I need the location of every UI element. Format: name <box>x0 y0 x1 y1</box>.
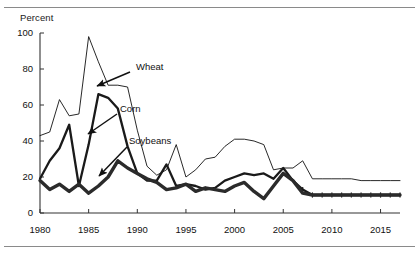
annotation-label-wheat: Wheat <box>136 61 164 72</box>
x-tick-label: 2005 <box>273 224 294 235</box>
annotation-label-soybeans: Soybeans <box>129 135 172 146</box>
x-tick-label: 2000 <box>224 224 245 235</box>
chart-figure: Percent 02040608010019801985199019952000… <box>0 0 419 254</box>
annotation-label-corn: Corn <box>120 103 141 114</box>
x-tick-label: 2010 <box>321 224 342 235</box>
y-tick-label: 20 <box>22 171 33 182</box>
x-tick-label: 1980 <box>29 224 50 235</box>
y-tick-label: 40 <box>22 135 33 146</box>
x-tick-label: 1985 <box>78 224 99 235</box>
x-tick-label: 1995 <box>175 224 196 235</box>
series-line-soybeans <box>40 161 400 199</box>
series-line-corn <box>40 94 400 195</box>
series-line-wheat <box>40 37 400 181</box>
y-tick-label: 80 <box>22 63 33 74</box>
y-tick-label: 100 <box>17 27 33 38</box>
annotation-arrow-wheat <box>97 72 130 86</box>
line-chart-plot: 0204060801001980198519901995200020052010… <box>0 0 419 254</box>
x-tick-label: 2015 <box>370 224 391 235</box>
y-tick-label: 0 <box>28 207 33 218</box>
x-tick-label: 1990 <box>127 224 148 235</box>
y-tick-label: 60 <box>22 99 33 110</box>
